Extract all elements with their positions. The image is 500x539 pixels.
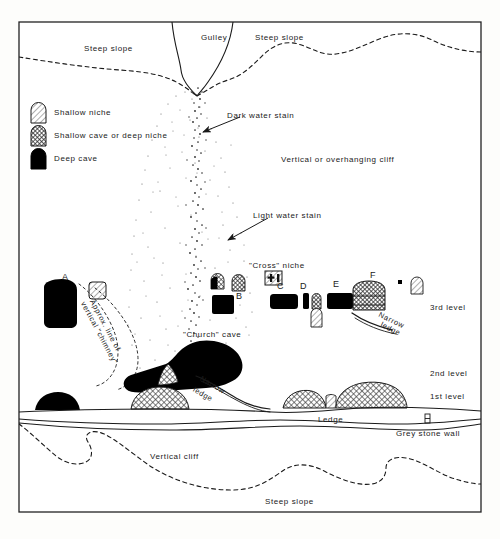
label-1st-level: 1st level — [430, 392, 465, 401]
label-steep-slope-bottom: Steep slope — [265, 497, 314, 506]
cave-feature-c — [270, 294, 298, 309]
label-church-cave: "Church" cave — [183, 330, 241, 339]
label-vertical-cliff: Vertical cliff — [150, 452, 199, 461]
niche-b-upper-left — [211, 274, 224, 290]
cave-feature-a — [44, 279, 77, 328]
niche-below-d — [311, 309, 322, 328]
legend-label-shallow-cave: Shallow cave or deep niche — [54, 131, 167, 140]
cave-feature-b — [212, 295, 234, 314]
label-cross-niche: "Cross" niche — [249, 261, 305, 270]
niche-near-a — [89, 282, 106, 299]
tiny-marker-near-f — [398, 280, 402, 284]
label-feature-d: D — [300, 281, 307, 291]
niche-feature-d-arch — [312, 294, 321, 310]
legend-symbol-deep-cave — [31, 149, 46, 170]
cave-feature-f — [353, 281, 385, 310]
label-dark-water-stain: Dark water stain — [227, 111, 294, 120]
mound-gap-light — [326, 395, 336, 409]
label-ledge: Ledge — [318, 415, 343, 424]
label-grey-stone-wall: Grey stone wall — [396, 429, 460, 438]
label-feature-f: F — [370, 270, 376, 280]
label-2nd-level: 2nd level — [430, 369, 467, 378]
label-steep-slope-top-left: Steep slope — [84, 44, 133, 53]
label-gulley: Gulley — [201, 33, 227, 42]
label-light-water-stain: Light water stain — [253, 211, 321, 220]
label-3rd-level: 3rd level — [430, 303, 466, 312]
label-steep-slope-top-right: Steep slope — [255, 33, 304, 42]
label-feature-e: E — [333, 279, 340, 289]
diagram-canvas: Gulley Steep slope Steep slope Shallow n… — [0, 0, 500, 539]
label-vertical-or-overhanging-cliff: Vertical or overhanging cliff — [281, 155, 394, 164]
niche-b-upper-right — [232, 275, 245, 292]
legend-symbol-shallow-niche — [31, 103, 46, 124]
legend-label-deep-cave: Deep cave — [54, 154, 98, 163]
legend-label-shallow-niche: Shallow niche — [54, 108, 111, 117]
cave-feature-e — [327, 293, 353, 309]
niche-right-of-f — [411, 277, 423, 294]
label-feature-a: A — [62, 272, 69, 282]
label-feature-c: C — [277, 281, 284, 291]
legend-symbol-shallow-cave — [31, 126, 46, 147]
label-feature-b: B — [236, 291, 243, 301]
cave-feature-d-bar — [303, 293, 309, 309]
